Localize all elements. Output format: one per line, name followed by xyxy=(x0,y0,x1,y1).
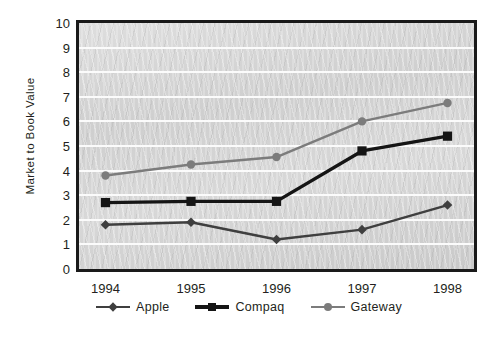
y-axis-tick-label: 8 xyxy=(48,66,70,79)
y-axis-tick-label: 6 xyxy=(48,115,70,128)
data-point-marker xyxy=(101,171,109,179)
y-axis-tick-label: 4 xyxy=(48,164,70,177)
legend-marker-square-icon xyxy=(195,301,229,313)
y-axis-tick-label: 7 xyxy=(48,90,70,103)
series-line xyxy=(106,205,448,239)
data-series-layer xyxy=(76,20,477,272)
data-point-marker xyxy=(357,146,366,155)
series-line xyxy=(106,103,448,176)
series-apple xyxy=(101,200,453,244)
y-axis-tick-label: 0 xyxy=(48,263,70,276)
data-point-marker xyxy=(357,225,367,235)
legend-item-compaq[interactable]: Compaq xyxy=(195,300,284,314)
data-point-marker xyxy=(272,235,282,245)
data-point-marker xyxy=(272,197,281,206)
x-axis-tick-label: 1996 xyxy=(247,281,307,296)
x-axis-tick-label: 1994 xyxy=(76,281,136,296)
legend-item-gateway[interactable]: Gateway xyxy=(311,300,402,314)
legend-item-apple[interactable]: Apple xyxy=(96,300,169,314)
series-gateway xyxy=(101,99,451,180)
chart-figure: Market to Book Value 012345678910 199419… xyxy=(0,0,498,339)
legend-marker-diamond-icon xyxy=(96,301,130,313)
data-point-marker xyxy=(101,220,111,230)
data-point-marker xyxy=(186,197,195,206)
data-point-marker xyxy=(358,117,366,125)
data-point-marker xyxy=(101,198,110,207)
y-axis-tick-label: 10 xyxy=(48,17,70,30)
legend-label: Gateway xyxy=(351,300,402,314)
legend-label: Compaq xyxy=(235,300,284,314)
y-axis-tick-label: 1 xyxy=(48,238,70,251)
x-axis-tick-label: 1998 xyxy=(418,281,478,296)
data-point-marker xyxy=(443,99,451,107)
y-axis-title: Market to Book Value xyxy=(24,46,36,226)
data-point-marker xyxy=(443,200,453,210)
data-point-marker xyxy=(186,217,196,227)
data-point-marker xyxy=(443,132,452,141)
data-point-marker xyxy=(187,160,195,168)
y-axis-tick-label: 5 xyxy=(48,140,70,153)
x-axis-tick-label: 1995 xyxy=(161,281,221,296)
legend-label: Apple xyxy=(136,300,169,314)
legend-marker-circle-icon xyxy=(311,301,345,313)
y-axis-tick-labels: 012345678910 xyxy=(44,0,70,339)
y-axis-tick-label: 9 xyxy=(48,41,70,54)
x-axis-tick-label: 1997 xyxy=(332,281,392,296)
y-axis-tick-label: 2 xyxy=(48,213,70,226)
data-point-marker xyxy=(272,153,280,161)
chart-legend: AppleCompaqGateway xyxy=(0,300,498,314)
y-axis-tick-label: 3 xyxy=(48,189,70,202)
